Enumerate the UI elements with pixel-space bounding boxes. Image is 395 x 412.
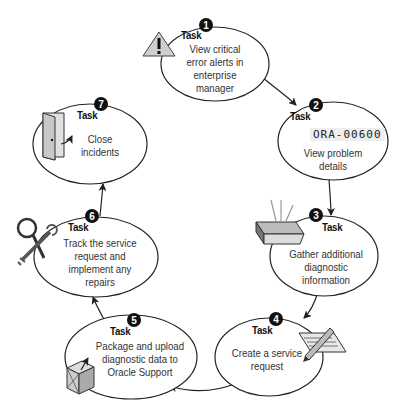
step-4-line: Create a service: [227, 347, 306, 360]
error-code: ORA-00600: [310, 128, 385, 141]
svg-text:4: 4: [273, 314, 279, 325]
step-1-line: View critical: [171, 43, 259, 56]
step-7-task-label: Task: [77, 109, 97, 121]
step-6-line: repairs: [54, 276, 146, 289]
step-1-text: View critical error alerts in enterprise…: [171, 43, 259, 95]
step-5-task-label: Task: [110, 325, 130, 337]
svg-text:3: 3: [313, 210, 319, 221]
step-4-line: request: [227, 360, 306, 373]
svg-text:7: 7: [98, 99, 104, 110]
step-7-text: Close incidents: [65, 133, 135, 159]
step-5-line: Oracle Support: [92, 366, 189, 379]
step-3-task-label: Task: [322, 221, 342, 233]
step-1-task-label: Task: [181, 29, 201, 41]
step-5-line: Package and upload: [92, 340, 189, 353]
step-2-task-label: Task: [290, 110, 310, 122]
step-1-line: enterprise: [171, 69, 259, 82]
arrow-6-to-7: [100, 184, 103, 216]
step-3-text: Gather additional diagnostic information: [280, 248, 372, 287]
step-7-line: incidents: [65, 146, 135, 159]
step-2-text: View problem details: [289, 147, 377, 173]
svg-text:6: 6: [89, 211, 95, 222]
step-3-badge: 3: [309, 208, 323, 222]
step-2-line: details: [289, 160, 377, 173]
step-4-task-label: Task: [252, 324, 272, 336]
step-2-line: View problem: [289, 147, 377, 160]
step-1-line: error alerts in: [171, 56, 259, 69]
step-5-text: Package and upload diagnostic data to Or…: [92, 340, 189, 379]
step-1-line: manager: [171, 82, 259, 95]
step-6-line: request and: [54, 250, 146, 263]
step-6-text: Track the service request and implement …: [54, 237, 146, 289]
step-6-task-label: Task: [68, 221, 88, 233]
step-4-text: Create a service request: [227, 347, 306, 373]
step-7-line: Close: [65, 133, 135, 146]
arrow-1-to-2: [262, 77, 296, 105]
svg-text:5: 5: [131, 315, 137, 326]
svg-text:2: 2: [313, 100, 319, 111]
step-2-badge: 2: [309, 98, 323, 112]
step-6-line: implement any: [54, 263, 146, 276]
step-6-line: Track the service: [54, 237, 146, 250]
step-3-line: information: [280, 274, 372, 287]
step-3-line: diagnostic: [280, 261, 372, 274]
arrow-2-to-3: [329, 179, 331, 215]
step-3-line: Gather additional: [280, 248, 372, 261]
svg-text:1: 1: [203, 20, 209, 31]
step-5-line: diagnostic data to: [92, 353, 189, 366]
